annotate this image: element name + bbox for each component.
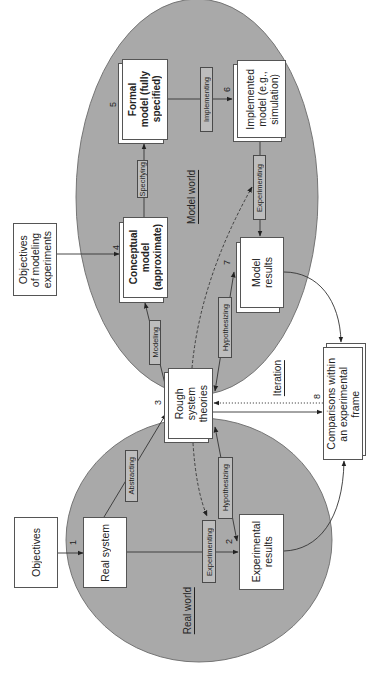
formal-model-line-3: specified) — [151, 71, 163, 127]
rough-theories-line-2: system — [185, 385, 197, 422]
model-results-line-2: results — [262, 257, 274, 288]
experimental-results-box: Experimental results — [239, 514, 284, 590]
step-number-1-text: 1 — [69, 540, 78, 545]
comparisons-box: Comparisons within an experimental frame — [323, 347, 363, 460]
experimenting-real-text: Experimenting — [205, 528, 214, 576]
iteration-label: Iteration — [272, 356, 284, 400]
experimenting-model-label: Experimenting — [253, 155, 266, 220]
step-number-5: 5 — [108, 100, 118, 110]
real-system-box: Real system — [83, 517, 127, 588]
real-world-text: Real world — [182, 587, 193, 634]
objectives-modeling-line-1: Objectives — [17, 231, 29, 288]
implemented-model-line-1: Implemented — [244, 69, 256, 130]
step-number-5-text: 5 — [109, 102, 118, 107]
experimental-results-line-1: Experimental — [250, 521, 262, 582]
modeling-process-diagram: Model world Real world Objectives of mod… — [0, 0, 368, 688]
formal-model-box: Formal model (fully specified) — [122, 59, 168, 140]
modeling-label: Modeling — [149, 320, 161, 365]
rough-theories-box: Rough system theories — [168, 368, 213, 439]
model-world-label: Model world — [186, 163, 198, 230]
model-results-box: Model results — [240, 237, 284, 308]
conceptual-model-line-3: (approximate) — [152, 224, 164, 290]
formal-model-line-1: Formal — [127, 71, 139, 127]
implemented-model-line-3: simulation) — [268, 69, 280, 130]
experimenting-model-text: Experimenting — [255, 164, 264, 212]
rough-theories-line-3: theories — [197, 385, 209, 422]
real-world-label: Real world — [182, 583, 194, 639]
formal-model-line-2: model (fully — [139, 71, 151, 127]
abstracting-label: Abstracting — [125, 450, 138, 502]
objectives-line-1: Objectives — [30, 528, 42, 577]
objectives-modeling-line-3: experiments — [41, 231, 53, 288]
experimental-results-line-2: results — [262, 521, 274, 582]
model-results-line-1: Model — [250, 257, 262, 288]
step-number-6-text: 6 — [223, 87, 232, 92]
comparisons-line-3: frame — [349, 358, 361, 450]
objectives-box: Objectives — [14, 517, 58, 588]
step-number-2: 2 — [224, 537, 234, 547]
step-number-7-text: 7 — [223, 260, 232, 265]
real-system-line-1: Real system — [99, 524, 111, 582]
objectives-modeling-box: Objectives of modeling experiments — [13, 223, 57, 296]
hypothesizing-model-label: Hypothesizing — [218, 297, 232, 358]
iteration-text: Iteration — [272, 360, 283, 396]
step-number-2-text: 2 — [225, 539, 234, 544]
step-number-7: 7 — [222, 258, 232, 268]
implementing-label: Implementing — [200, 67, 213, 132]
experimenting-real-label: Experimenting — [202, 520, 216, 583]
hypothesizing-model-text: Hypothesizing — [221, 304, 230, 351]
rough-theories-line-1: Rough — [173, 385, 185, 422]
modeling-text: Modeling — [151, 327, 160, 357]
implemented-model-line-2: model (e.g., — [256, 69, 268, 130]
model-world-text: Model world — [186, 170, 197, 224]
comparisons-line-2: an experimental — [337, 358, 349, 450]
hypothesizing-real-text: Hypothesizing — [221, 464, 230, 511]
step-number-4-text: 4 — [112, 245, 121, 250]
specifying-text: Specifying — [138, 162, 147, 197]
hypothesizing-real-label: Hypothesizing — [218, 457, 233, 519]
conceptual-model-box: Conceptual model (approximate) — [123, 217, 168, 298]
objectives-modeling-line-2: of modeling — [29, 231, 41, 288]
conceptual-model-line-1: Conceptual — [128, 224, 140, 290]
step-number-1: 1 — [68, 538, 78, 548]
conceptual-model-line-2: model — [140, 224, 152, 290]
specifying-label: Specifying — [137, 160, 148, 198]
abstracting-text: Abstracting — [127, 457, 136, 495]
step-number-8-text: 8 — [313, 394, 322, 399]
step-number-6: 6 — [222, 85, 232, 95]
implemented-model-box: Implemented model (e.g., simulation) — [237, 60, 286, 138]
step-number-4: 4 — [111, 243, 121, 253]
implementing-text: Implementing — [202, 77, 211, 122]
comparisons-line-1: Comparisons within — [325, 358, 337, 450]
step-number-3-text: 3 — [154, 400, 163, 405]
step-number-8: 8 — [312, 392, 322, 402]
step-number-3: 3 — [153, 398, 163, 408]
